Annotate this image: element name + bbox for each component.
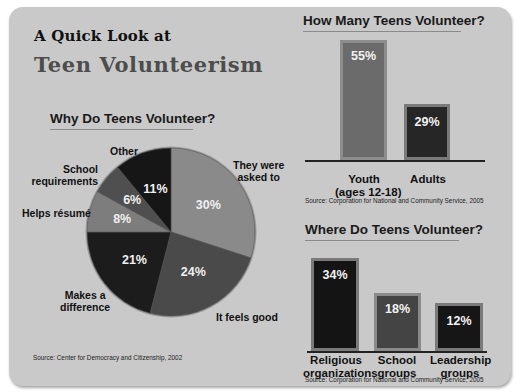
- how-many-source: Source: Corporation for National and Com…: [305, 196, 484, 205]
- pie-slice-value: 6%: [123, 193, 141, 207]
- pie-label-asked: They wereasked to: [233, 159, 284, 183]
- pie-label-makes-difference: Makes adifference: [60, 289, 110, 313]
- bar-leadership-groups: 12%: [435, 303, 483, 351]
- how-many-baseline: [305, 160, 485, 162]
- pie-slice-value: 11%: [143, 182, 167, 196]
- pie-label-school-requirements: Schoolrequirements: [24, 163, 98, 187]
- pie-label-other: Other: [110, 145, 138, 157]
- pie-slice-value: 21%: [122, 253, 147, 267]
- where-source: Source: Corporation for National and Com…: [305, 375, 484, 384]
- pie-slice-value: 8%: [113, 212, 131, 226]
- where-baseline: [307, 351, 487, 353]
- pie-slice-value: 30%: [196, 198, 221, 212]
- bar-leadership-groups-value: 12%: [438, 314, 480, 328]
- bar-religious-value: 34%: [314, 268, 356, 282]
- bar-religious: 34%: [311, 258, 359, 351]
- where-title: Where Do Teens Volunteer?: [305, 222, 459, 241]
- pie-label-helps-resume: Helps résumé: [22, 207, 84, 219]
- pie-slice-value: 24%: [181, 265, 206, 279]
- how-many-title: How Many Teens Volunteer?: [303, 13, 461, 32]
- bar-adults: 29%: [404, 104, 450, 160]
- bar-label-adults: Adults: [408, 173, 448, 185]
- bar-school-groups-value: 18%: [377, 302, 418, 316]
- pie-source: Source: Center for Democracy and Citizen…: [33, 353, 182, 362]
- bar-school-groups: 18%: [374, 293, 421, 351]
- bar-youth: 55%: [340, 40, 387, 160]
- bar-youth-value: 55%: [343, 49, 384, 63]
- bar-adults-value: 29%: [407, 115, 447, 129]
- pie-label-feels-good: It feels good: [216, 311, 278, 323]
